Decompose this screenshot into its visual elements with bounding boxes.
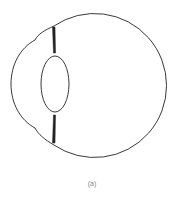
figure-caption: (a) [0,180,178,187]
eyeball-outline [54,14,167,158]
iris-lower [53,115,56,143]
eye-diagram [0,0,178,198]
cornea [11,26,54,145]
lens [41,56,69,112]
iris-upper [53,27,56,53]
